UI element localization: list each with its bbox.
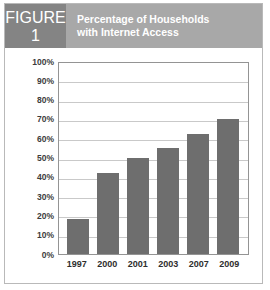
figure-badge-word: FIGURE <box>5 9 65 27</box>
y-axis-labels: 100%90%80%70%60%50%40%30%20%10%0% <box>5 62 54 255</box>
y-axis-tick-label: 60% <box>5 135 54 144</box>
y-axis-tick-label: 90% <box>5 77 54 86</box>
figure-title-line-1: Percentage of Households <box>77 13 256 26</box>
figure-badge-number: 1 <box>31 27 40 45</box>
figure-title: Percentage of Households with Internet A… <box>66 4 262 48</box>
y-axis-tick-label: 100% <box>5 58 54 67</box>
bar <box>187 134 209 254</box>
y-axis-tick-label: 80% <box>5 96 54 105</box>
y-axis-tick-label: 0% <box>5 251 54 260</box>
y-axis-tick-label: 70% <box>5 115 54 124</box>
x-axis-tick-label: 2003 <box>154 258 184 274</box>
y-axis-tick-label: 50% <box>5 154 54 163</box>
bar-slot <box>214 63 243 254</box>
bars-layer <box>59 63 248 254</box>
bar-chart: 100%90%80%70%60%50%40%30%20%10%0% 199720… <box>5 48 262 283</box>
bar <box>217 119 239 254</box>
bar <box>157 148 179 254</box>
x-axis-tick-label: 2000 <box>93 258 123 274</box>
figure-title-line-2: with Internet Access <box>77 26 256 39</box>
figure-header: FIGURE 1 Percentage of Households with I… <box>5 4 262 48</box>
plot-area <box>58 62 249 255</box>
x-axis-tick-label: 1997 <box>62 258 92 274</box>
x-axis-tick-label: 2009 <box>215 258 245 274</box>
bar-slot <box>123 63 152 254</box>
figure-badge: FIGURE 1 <box>5 4 66 48</box>
y-axis-tick-label: 30% <box>5 193 54 202</box>
y-axis-tick-label: 20% <box>5 212 54 221</box>
bar-slot <box>154 63 183 254</box>
bar-slot <box>184 63 213 254</box>
x-axis-tick-label: 2001 <box>123 258 153 274</box>
y-axis-tick-label: 40% <box>5 173 54 182</box>
x-axis-tick-label: 2007 <box>184 258 214 274</box>
bar-slot <box>63 63 92 254</box>
bar <box>97 173 119 254</box>
bar <box>67 219 89 254</box>
bar <box>127 158 149 255</box>
bar-slot <box>93 63 122 254</box>
x-axis-labels: 199720002001200320072009 <box>58 258 249 274</box>
figure-card: FIGURE 1 Percentage of Households with I… <box>4 3 263 284</box>
y-axis-tick-label: 10% <box>5 231 54 240</box>
